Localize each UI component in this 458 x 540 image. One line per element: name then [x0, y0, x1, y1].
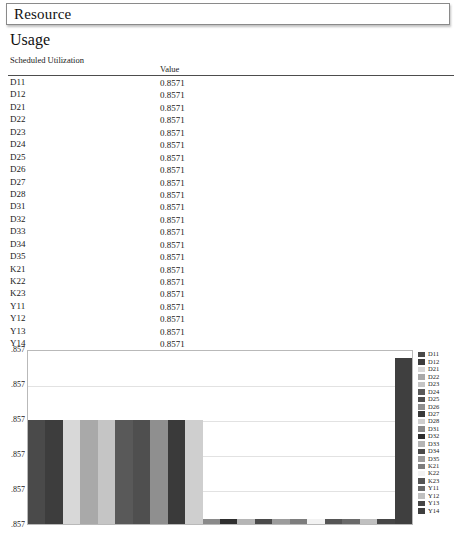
row-label: D21	[10, 102, 26, 112]
column-header-scheduled-utilization: Scheduled Utilization	[10, 55, 84, 65]
bar	[45, 420, 62, 524]
legend-swatch	[418, 426, 425, 432]
bar	[185, 420, 202, 524]
legend-swatch	[418, 374, 425, 380]
table-header-rule	[8, 75, 454, 76]
legend-swatch	[418, 456, 425, 462]
legend-label: D21	[428, 366, 439, 373]
bar	[28, 420, 45, 524]
row-label: D25	[10, 152, 26, 162]
table-row: D260.8571	[0, 164, 458, 176]
bar	[307, 519, 324, 524]
row-value: 0.8571	[160, 202, 185, 212]
legend-label: D23	[428, 381, 439, 388]
y-axis-tick-label: .857	[3, 485, 25, 494]
table-row: Y120.8571	[0, 313, 458, 325]
plot-area	[27, 350, 413, 525]
bar	[272, 519, 289, 524]
legend-swatch	[418, 367, 425, 373]
row-value: 0.8571	[160, 128, 185, 138]
legend-label: K22	[428, 470, 439, 477]
table-row: D280.8571	[0, 189, 458, 201]
table-row: K230.8571	[0, 288, 458, 300]
row-value: 0.8571	[160, 178, 185, 188]
window-title: Resource	[14, 6, 71, 23]
bar	[325, 519, 342, 524]
row-value: 0.8571	[160, 252, 185, 262]
row-value: 0.8571	[160, 153, 185, 163]
table-row: D250.8571	[0, 152, 458, 164]
legend-item: D34	[418, 448, 458, 455]
row-label: D11	[10, 77, 25, 87]
legend-label: D28	[428, 418, 439, 425]
bar	[203, 519, 220, 524]
legend-swatch	[418, 493, 425, 499]
row-label: D22	[10, 114, 26, 124]
bar	[220, 519, 237, 524]
bar	[377, 519, 394, 524]
row-label: D23	[10, 127, 26, 137]
bar	[168, 420, 185, 524]
legend-swatch	[418, 382, 425, 388]
legend-swatch	[418, 508, 425, 514]
table-row: D240.8571	[0, 139, 458, 151]
row-label: Y11	[10, 301, 25, 311]
bar	[395, 358, 412, 524]
table-row: D230.8571	[0, 127, 458, 139]
y-axis-tick-label: .857	[3, 345, 25, 354]
bar	[342, 519, 359, 524]
legend-swatch	[418, 397, 425, 403]
row-value: 0.8571	[160, 103, 185, 113]
table-row: D350.8571	[0, 251, 458, 263]
row-value: 0.8571	[160, 115, 185, 125]
legend-swatch	[418, 441, 425, 447]
legend-label: Y14	[428, 508, 439, 515]
row-value: 0.8571	[160, 190, 185, 200]
legend-label: Y13	[428, 500, 439, 507]
y-axis-tick-label: .857	[3, 450, 25, 459]
legend-item: Y14	[418, 507, 458, 514]
legend-swatch	[418, 464, 425, 470]
y-axis-tick-label: .857	[3, 380, 25, 389]
row-label: D31	[10, 201, 26, 211]
table-row: K210.8571	[0, 264, 458, 276]
table-row: Y110.8571	[0, 301, 458, 313]
table-row: D310.8571	[0, 201, 458, 213]
legend-swatch	[418, 359, 425, 365]
table-row: D330.8571	[0, 226, 458, 238]
row-label: K21	[10, 264, 26, 274]
table-row: D220.8571	[0, 114, 458, 126]
row-value: 0.8571	[160, 327, 185, 337]
legend-swatch	[418, 501, 425, 507]
legend-label: D25	[428, 396, 439, 403]
row-value: 0.8571	[160, 277, 185, 287]
bar	[290, 519, 307, 524]
y-axis-tick-label: .857	[3, 415, 25, 424]
bar	[237, 519, 254, 524]
row-label: D32	[10, 214, 26, 224]
section-heading: Usage	[10, 31, 50, 49]
row-label: D12	[10, 89, 26, 99]
legend-swatch	[418, 478, 425, 484]
row-value: 0.8571	[160, 165, 185, 175]
row-label: D35	[10, 251, 26, 261]
row-value: 0.8571	[160, 302, 185, 312]
legend-label: D11	[428, 351, 439, 358]
table-row: D340.8571	[0, 239, 458, 251]
row-label: Y12	[10, 313, 26, 323]
row-label: D34	[10, 239, 26, 249]
table-row: D320.8571	[0, 214, 458, 226]
row-value: 0.8571	[160, 289, 185, 299]
row-value: 0.8571	[160, 240, 185, 250]
table-row: D110.8571	[0, 77, 458, 89]
bar	[115, 420, 132, 524]
legend-swatch	[418, 486, 425, 492]
y-axis-tick-label: .857	[3, 520, 25, 529]
legend-swatch	[418, 434, 425, 440]
row-label: D27	[10, 177, 26, 187]
table-body: D110.8571D120.8571D210.8571D220.8571D230…	[0, 77, 458, 351]
row-value: 0.8571	[160, 265, 185, 275]
legend-label: D34	[428, 448, 439, 455]
window-title-box: Resource	[6, 3, 450, 25]
row-value: 0.8571	[160, 78, 185, 88]
